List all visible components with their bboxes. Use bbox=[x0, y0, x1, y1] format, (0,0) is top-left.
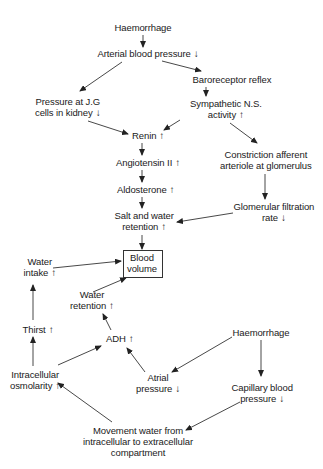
edge-capillary-bp-to-movement-water bbox=[186, 402, 240, 430]
node-label-line: activity↑ bbox=[190, 109, 262, 120]
edge-arterial-bp-to-baroreceptor bbox=[162, 61, 201, 71]
node-label-line: Arterial blood pressure↓ bbox=[98, 48, 199, 59]
node-text: Water bbox=[28, 256, 52, 267]
node-text: Haemorrhage bbox=[115, 22, 172, 33]
decrease-arrow-icon: ↓ bbox=[281, 212, 286, 223]
node-label-line: Water bbox=[70, 289, 114, 300]
node-label-line: rate↓ bbox=[234, 212, 315, 223]
decrease-arrow-icon: ↓ bbox=[194, 48, 199, 59]
node-label-line: retention↑ bbox=[70, 300, 114, 311]
node-baroreceptor: Baroreceptor reflex bbox=[193, 74, 272, 85]
node-label-line: Pressure at J.G bbox=[35, 96, 101, 107]
increase-arrow-icon: ↑ bbox=[55, 380, 60, 391]
node-movement-water: Movement water fromintracellular to extr… bbox=[83, 425, 193, 458]
node-label-line: Sympathetic N.S. bbox=[190, 98, 262, 109]
decrease-arrow-icon: ↓ bbox=[279, 393, 284, 404]
node-text: Salt and water bbox=[115, 210, 174, 221]
increase-arrow-icon: ↑ bbox=[49, 324, 54, 335]
node-water-intake: Waterintake↑ bbox=[24, 256, 57, 278]
node-text: Angiotensin II bbox=[116, 157, 172, 168]
node-text: intracellular to extracellular bbox=[83, 436, 193, 447]
edge-movement-water-to-intracellular-osm bbox=[58, 383, 112, 422]
node-text: Aldosterone bbox=[117, 184, 167, 195]
increase-arrow-icon: ↑ bbox=[51, 267, 56, 278]
node-constriction: Constriction afferentarteriole at glomer… bbox=[220, 149, 312, 171]
edge-water-intake-to-blood-volume bbox=[53, 261, 121, 268]
edge-haemorrhage-bottom-to-atrial-pressure bbox=[172, 337, 232, 372]
edge-sympathetic-to-renin bbox=[164, 120, 180, 130]
node-label-line: Movement water from bbox=[83, 425, 193, 436]
node-text: cells in kidney bbox=[35, 107, 93, 118]
node-atrial-pressure: Atrialpressure↓ bbox=[136, 372, 180, 394]
node-label-line: cells in kidney↓ bbox=[35, 107, 101, 118]
edge-jg-pressure-to-renin bbox=[88, 121, 128, 134]
node-arterial-bp: Arterial blood pressure↓ bbox=[98, 48, 199, 59]
node-text: arteriole at glomerulus bbox=[220, 160, 312, 171]
node-text: pressure bbox=[136, 383, 172, 394]
node-text: retention bbox=[70, 300, 106, 311]
increase-arrow-icon: ↑ bbox=[175, 157, 180, 168]
node-text: compartment bbox=[111, 447, 165, 458]
node-gfr: Glomerular filtrationrate↓ bbox=[234, 201, 315, 223]
node-label-line: ADH↑ bbox=[106, 333, 134, 344]
node-label-line: Angiotensin II↑ bbox=[116, 157, 180, 168]
node-text: Glomerular filtration bbox=[234, 201, 315, 212]
node-text: activity bbox=[208, 109, 236, 120]
edge-gfr-to-salt-water bbox=[177, 213, 233, 222]
node-label-line: compartment bbox=[83, 447, 193, 458]
decrease-arrow-icon: ↓ bbox=[96, 107, 101, 118]
node-label-line: osmolarity↑ bbox=[10, 380, 60, 391]
node-label-line: intracellular to extracellular bbox=[83, 436, 193, 447]
node-text: Intracellular bbox=[11, 369, 59, 380]
node-label-line: Renin↑ bbox=[132, 130, 164, 141]
physiology-flow-diagram: HaemorrhageArterial blood pressure↓Baror… bbox=[0, 0, 323, 469]
node-text: Constriction afferent bbox=[224, 149, 307, 160]
node-text: intake bbox=[24, 267, 49, 278]
increase-arrow-icon: ↑ bbox=[159, 130, 164, 141]
node-label-line: Intracellular bbox=[10, 369, 60, 380]
node-text: Atrial bbox=[148, 372, 169, 383]
node-label-line: retention↑ bbox=[115, 221, 174, 232]
node-label-line: Haemorrhage bbox=[115, 22, 172, 33]
node-jg-pressure: Pressure at J.Gcells in kidney↓ bbox=[35, 96, 101, 118]
node-label-line: Thirst↑ bbox=[23, 324, 54, 335]
increase-arrow-icon: ↑ bbox=[161, 221, 166, 232]
node-text: ADH bbox=[106, 333, 126, 344]
node-label-line: pressure↓ bbox=[136, 383, 180, 394]
node-text: osmolarity bbox=[10, 380, 52, 391]
node-label-line: Glomerular filtration bbox=[234, 201, 315, 212]
node-text: Baroreceptor reflex bbox=[193, 74, 272, 85]
node-text: rate bbox=[262, 212, 278, 223]
node-haemorrhage-bottom: Haemorrhage bbox=[233, 327, 290, 338]
node-text: Sympathetic N.S. bbox=[190, 98, 262, 109]
node-label-line: Salt and water bbox=[115, 210, 174, 221]
node-label-line: volume bbox=[127, 263, 157, 274]
node-text: Haemorrhage bbox=[233, 327, 290, 338]
edge-arterial-bp-to-jg-pressure bbox=[80, 62, 122, 91]
node-text: Arterial blood pressure bbox=[98, 48, 191, 59]
node-label-line: Water bbox=[24, 256, 57, 267]
node-label-line: Constriction afferent bbox=[220, 149, 312, 160]
increase-arrow-icon: ↑ bbox=[170, 184, 175, 195]
edge-atrial-pressure-to-adh bbox=[127, 348, 145, 372]
node-label-line: Atrial bbox=[136, 372, 180, 383]
node-adh: ADH↑ bbox=[106, 333, 134, 344]
edge-sympathetic-to-constriction bbox=[230, 123, 257, 143]
node-text: pressure bbox=[240, 393, 276, 404]
node-text: Renin bbox=[132, 130, 156, 141]
node-blood-volume: Bloodvolume bbox=[127, 252, 157, 274]
node-water-retention: Waterretention↑ bbox=[70, 289, 114, 311]
node-label-line: Blood bbox=[127, 252, 157, 263]
node-text: Water bbox=[80, 289, 104, 300]
node-label-line: pressure↓ bbox=[232, 393, 293, 404]
node-text: Movement water from bbox=[93, 425, 183, 436]
node-text: volume bbox=[127, 263, 157, 274]
node-text: Capillary blood bbox=[232, 382, 293, 393]
node-capillary-bp: Capillary bloodpressure↓ bbox=[232, 382, 293, 404]
node-sympathetic: Sympathetic N.S.activity↑ bbox=[190, 98, 262, 120]
node-text: Thirst bbox=[23, 324, 46, 335]
node-aldosterone: Aldosterone↑ bbox=[117, 184, 175, 195]
node-text: Pressure at J.G bbox=[36, 96, 101, 107]
node-label-line: arteriole at glomerulus bbox=[220, 160, 312, 171]
edge-adh-to-water-retention bbox=[103, 314, 111, 330]
